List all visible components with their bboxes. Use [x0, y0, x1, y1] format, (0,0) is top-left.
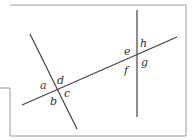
label-a: a: [40, 79, 47, 92]
label-g: g: [141, 56, 148, 69]
diagram-canvas: a d b c e h f g: [0, 0, 196, 140]
label-f: f: [123, 64, 130, 77]
label-d: d: [57, 74, 64, 87]
label-e: e: [124, 45, 131, 58]
label-b: b: [50, 95, 57, 108]
line-one: [30, 34, 77, 129]
frame-border: [0, 5, 186, 136]
label-c: c: [64, 87, 70, 100]
label-h: h: [140, 37, 147, 50]
transversal-line: [22, 37, 177, 105]
